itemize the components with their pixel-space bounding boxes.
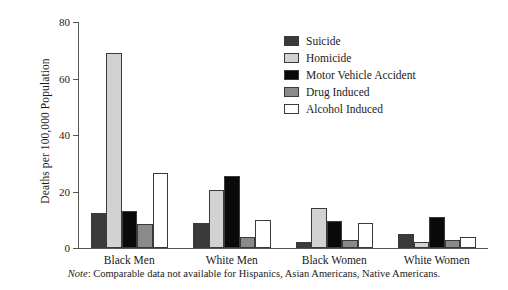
legend-item: Motor Vehicle Accident <box>284 66 416 83</box>
y-tick-label: 40 <box>59 129 70 141</box>
bar <box>429 217 445 248</box>
bar <box>193 223 209 248</box>
note-text: Comparable data not available for Hispan… <box>93 268 440 279</box>
bar <box>414 242 430 248</box>
y-tick-mark <box>73 192 78 193</box>
legend-swatch-icon <box>284 70 299 80</box>
y-tick-label: 20 <box>59 186 70 198</box>
figure-note: Note: Comparable data not available for … <box>0 268 508 279</box>
x-axis-group-label: Black Women <box>296 254 374 266</box>
bar <box>296 242 312 248</box>
bar <box>342 240 358 248</box>
plot-area: 020406080 Black MenWhite MenBlack WomenW… <box>78 22 488 248</box>
legend-item: Suicide <box>284 32 416 49</box>
bar <box>311 208 327 248</box>
legend-label: Suicide <box>306 35 341 47</box>
legend-label: Homicide <box>306 52 351 64</box>
legend-label: Alcohol Induced <box>306 103 383 115</box>
y-tick-mark <box>73 22 78 23</box>
bar-group: Black Men <box>91 22 169 248</box>
note-label: Note <box>68 268 88 279</box>
legend-item: Drug Induced <box>284 83 416 100</box>
bar <box>209 190 225 248</box>
legend-swatch-icon <box>284 87 299 97</box>
y-tick-mark <box>73 248 78 249</box>
bar <box>224 176 240 248</box>
legend-swatch-icon <box>284 104 299 114</box>
bar <box>240 237 256 248</box>
legend-item: Alcohol Induced <box>284 100 416 117</box>
x-axis-line <box>78 248 488 249</box>
bar <box>460 237 476 248</box>
y-axis-title: Deaths per 100,000 Population <box>39 16 51 246</box>
y-tick-label: 60 <box>59 73 70 85</box>
bar <box>153 173 169 248</box>
x-axis-group-label: White Men <box>193 254 271 266</box>
bar <box>91 213 107 248</box>
bar-group: White Men <box>193 22 271 248</box>
y-axis-line <box>78 22 79 249</box>
y-tick-mark <box>73 135 78 136</box>
y-tick-label: 0 <box>65 242 71 254</box>
bar <box>122 211 138 248</box>
legend-label: Drug Induced <box>306 86 370 98</box>
bar <box>445 240 461 248</box>
chart-figure: Deaths per 100,000 Population 020406080 … <box>0 0 508 290</box>
bar <box>327 221 343 248</box>
y-tick-label: 80 <box>59 16 70 28</box>
bar <box>106 53 122 248</box>
bar <box>358 223 374 248</box>
legend-swatch-icon <box>284 36 299 46</box>
bar <box>398 234 414 248</box>
legend-item: Homicide <box>284 49 416 66</box>
bar <box>137 224 153 248</box>
bar <box>255 220 271 248</box>
x-axis-group-label: Black Men <box>91 254 169 266</box>
y-tick-mark <box>73 79 78 80</box>
chart-legend: SuicideHomicideMotor Vehicle AccidentDru… <box>284 32 416 117</box>
x-axis-group-label: White Women <box>398 254 476 266</box>
legend-swatch-icon <box>284 53 299 63</box>
legend-label: Motor Vehicle Accident <box>306 69 416 81</box>
